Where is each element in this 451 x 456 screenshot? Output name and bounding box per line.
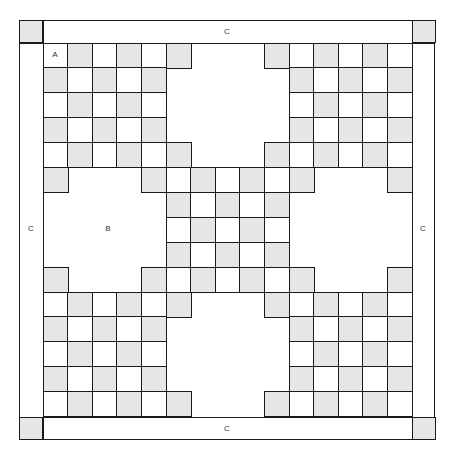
patch-square-gray	[67, 142, 93, 168]
patch-square-white	[313, 67, 339, 93]
patch-square-white	[92, 292, 118, 318]
patch-square-white	[264, 167, 290, 193]
patch-square-white	[141, 43, 167, 69]
patch-square-gray	[67, 92, 93, 118]
patch-square-white	[289, 341, 315, 367]
label-b: B	[105, 225, 110, 233]
patch-square-white	[313, 316, 339, 342]
patch-square-gray	[116, 292, 142, 318]
patch-square-gray	[313, 292, 339, 318]
patch-square-gray	[313, 391, 339, 417]
patch-square-white	[387, 391, 413, 417]
patch-square-gray	[289, 67, 315, 93]
patch-square-gray	[264, 192, 290, 218]
patch-square-gray	[313, 43, 339, 69]
corner-square-top-right	[412, 20, 436, 43]
patch-square-gray	[239, 167, 265, 193]
patch-square-gray	[43, 67, 69, 93]
patch-square-white	[387, 292, 413, 318]
patch-square-white	[387, 92, 413, 118]
patch-square-gray	[239, 217, 265, 243]
patch-square-white	[92, 92, 118, 118]
patch-square-gray	[141, 117, 167, 143]
patch-square-gray	[166, 43, 192, 69]
patch-square-gray	[362, 391, 388, 417]
patch-square-gray	[166, 192, 192, 218]
patch-square-gray	[362, 341, 388, 367]
patch-square-gray	[362, 292, 388, 318]
patch-square-gray	[116, 43, 142, 69]
patch-square-gray	[92, 117, 118, 143]
patch-square-white	[215, 217, 241, 243]
patch-square-gray	[92, 67, 118, 93]
patch-square-gray	[215, 242, 241, 268]
patch-square-gray	[190, 217, 216, 243]
patch-square-white	[362, 366, 388, 392]
patch-square-gray	[362, 142, 388, 168]
patch-square-white	[92, 341, 118, 367]
patch-square-white	[67, 366, 93, 392]
patch-square-white	[67, 117, 93, 143]
patch-square-white	[362, 316, 388, 342]
patch-square-white	[141, 142, 167, 168]
patch-square-white	[43, 391, 69, 417]
patch-square-gray	[387, 316, 413, 342]
patch-square-white	[116, 117, 142, 143]
patch-square-white	[338, 92, 364, 118]
patch-square-gray	[215, 192, 241, 218]
patch-square-white	[264, 267, 290, 293]
patch-square-gray	[190, 267, 216, 293]
patch-square-white	[289, 92, 315, 118]
patch-square-white	[166, 167, 192, 193]
patch-square-white	[190, 192, 216, 218]
patch-square-gray	[116, 92, 142, 118]
patch-square-gray	[362, 92, 388, 118]
patch-square-white	[338, 341, 364, 367]
patch-square-white	[43, 341, 69, 367]
patch-square-gray	[239, 267, 265, 293]
patch-square-gray	[387, 267, 413, 293]
patch-square-white	[116, 366, 142, 392]
label-a: A	[52, 51, 57, 59]
patch-square-white	[362, 67, 388, 93]
patch-square-white	[141, 92, 167, 118]
patch-square-gray	[387, 167, 413, 193]
patch-square-white	[67, 67, 93, 93]
label-c-left: C	[28, 225, 34, 233]
patch-square-gray	[264, 242, 290, 268]
patch-square-white	[43, 292, 69, 318]
patch-square-gray	[141, 267, 167, 293]
patch-square-gray	[313, 341, 339, 367]
patch-square-gray	[387, 366, 413, 392]
patch-square-gray	[289, 366, 315, 392]
patch-square-gray	[338, 366, 364, 392]
patch-square-gray	[387, 67, 413, 93]
patch-square-white	[338, 43, 364, 69]
patch-square-gray	[67, 341, 93, 367]
patch-square-gray	[43, 267, 69, 293]
patch-square-gray	[362, 43, 388, 69]
patch-square-white	[338, 391, 364, 417]
patch-square-gray	[116, 341, 142, 367]
patch-square-gray	[264, 391, 290, 417]
patch-square-white	[92, 142, 118, 168]
patch-square-gray	[141, 67, 167, 93]
patch-square-white	[43, 142, 69, 168]
patch-square-white	[141, 341, 167, 367]
patch-square-white	[239, 242, 265, 268]
patch-square-gray	[338, 316, 364, 342]
patch-square-white	[387, 341, 413, 367]
patch-square-gray	[67, 292, 93, 318]
corner-square-top-left	[19, 20, 43, 43]
patch-square-white	[166, 267, 192, 293]
patch-square-white	[116, 67, 142, 93]
patch-square-white	[141, 292, 167, 318]
patch-square-gray	[387, 117, 413, 143]
patch-square-white	[264, 217, 290, 243]
patch-square-gray	[166, 142, 192, 168]
patch-square-white	[338, 292, 364, 318]
patch-square-gray	[289, 316, 315, 342]
patch-square-white	[289, 391, 315, 417]
patch-square-white	[387, 142, 413, 168]
patch-square-white	[313, 117, 339, 143]
